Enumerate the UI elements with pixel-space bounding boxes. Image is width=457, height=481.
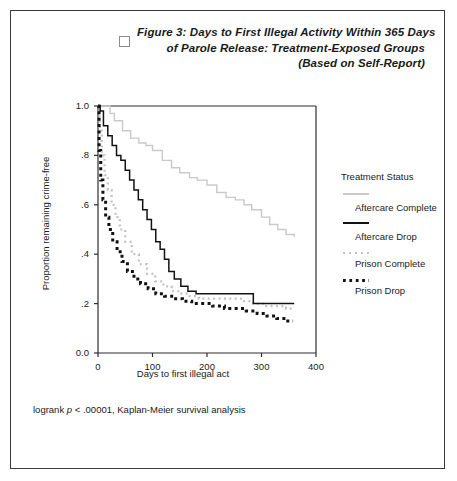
legend-entry-prison-complete: Prison Complete [341, 251, 449, 269]
x-tick-label: 0 [81, 361, 115, 372]
series-line-aftercare-complete [98, 106, 294, 237]
legend-label-aftercare-complete: Aftercare Complete [341, 202, 449, 213]
y-tick-label: .2 [63, 299, 89, 309]
series-line-aftercare-drop [98, 106, 294, 304]
legend-swatch-prison-complete [343, 251, 369, 255]
legend-label-prison-drop: Prison Drop [341, 285, 449, 296]
footnote-suffix: < .00001, Kaplan-Meier survival analysis [72, 404, 245, 415]
legend-entry-aftercare-drop: Aftercare Drop [341, 222, 449, 242]
footnote: logrank p < .00001, Kaplan-Meier surviva… [33, 404, 246, 415]
series-line-prison-complete [98, 106, 294, 309]
x-tick-label: 100 [136, 361, 170, 372]
x-tick-label: 300 [245, 361, 279, 372]
chart-legend: Treatment Status Aftercare Complete Afte… [341, 171, 449, 305]
legend-entry-aftercare-complete: Aftercare Complete [341, 193, 449, 213]
legend-title: Treatment Status [341, 171, 449, 182]
legend-label-prison-complete: Prison Complete [341, 258, 449, 269]
y-tick-label: 0.0 [63, 348, 89, 358]
figure-frame: Figure 3: Days to First Illegal Activity… [10, 10, 445, 469]
y-tick-label: .6 [63, 200, 89, 210]
series-line-prison-drop [98, 106, 293, 321]
legend-swatch-prison-drop [343, 278, 369, 282]
y-axis-title: Proportion remaining crime-free [40, 129, 51, 319]
footnote-prefix: logrank [33, 404, 67, 415]
y-tick-label: .8 [63, 150, 89, 160]
y-tick-label: .4 [63, 249, 89, 259]
legend-entry-prison-drop: Prison Drop [341, 278, 449, 296]
legend-swatch-aftercare-complete [343, 193, 369, 199]
legend-label-aftercare-drop: Aftercare Drop [341, 231, 449, 242]
legend-swatch-aftercare-drop [343, 222, 369, 228]
x-tick-label: 400 [299, 361, 333, 372]
x-tick-label: 200 [190, 361, 224, 372]
y-tick-label: 1.0 [63, 101, 89, 111]
